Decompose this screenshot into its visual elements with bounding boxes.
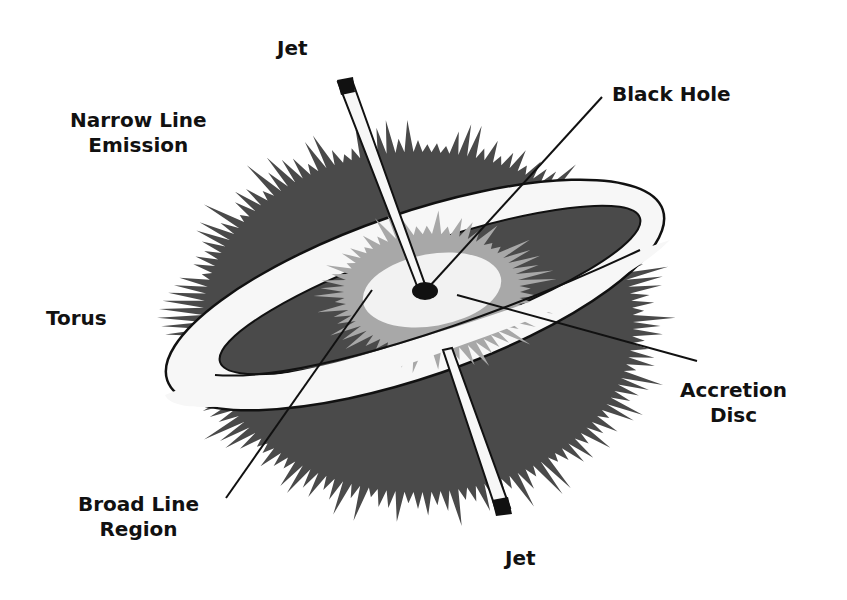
label-torus: Torus (46, 306, 107, 331)
label-jet-bottom: Jet (505, 546, 536, 571)
label-black-hole: Black Hole (612, 82, 731, 107)
black-hole (412, 282, 438, 300)
label-narrow-line-emission: Narrow Line Emission (70, 108, 207, 158)
label-accretion-disc: Accretion Disc (680, 378, 787, 428)
label-broad-line-region: Broad Line Region (78, 492, 199, 542)
label-jet-top: Jet (277, 36, 308, 61)
